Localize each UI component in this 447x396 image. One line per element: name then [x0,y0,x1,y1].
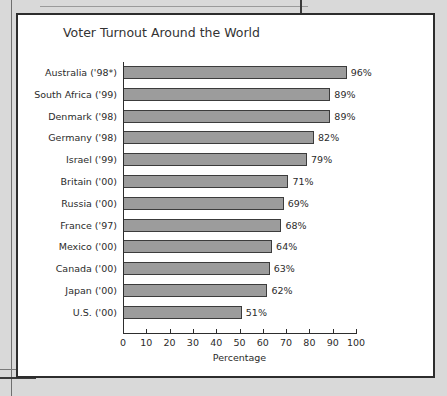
x-axis-tick-label: 50 [228,337,252,348]
y-axis-line [123,62,124,333]
x-axis-tick-label: 80 [297,337,321,348]
page-top-rule [40,6,308,7]
bar [123,175,288,188]
bar-value-label: 82% [318,131,339,144]
bar [123,284,267,297]
bar-category-label: South Africa ('99) [0,88,117,101]
bar [123,262,270,275]
bar [123,197,284,210]
x-axis-tick [309,329,310,333]
x-axis-tick-label: 20 [158,337,182,348]
x-axis-tick-label: 70 [274,337,298,348]
bar [123,131,314,144]
bar-value-label: 69% [288,197,309,210]
x-axis-title: Percentage [123,352,356,363]
x-axis-tick-label: 100 [344,337,368,348]
bar-value-label: 51% [246,306,267,319]
bar-category-label: Russia ('00) [0,197,117,210]
page-top-tick-mark [300,0,302,14]
x-axis-tick [240,329,241,333]
bar [123,153,307,166]
x-axis-line [123,333,357,334]
bar-category-label: Canada ('00) [0,262,117,275]
x-axis-tick [216,329,217,333]
bar-value-label: 89% [334,88,355,101]
bar-category-label: Israel ('99) [0,153,117,166]
bar-value-label: 96% [351,66,372,79]
x-axis-tick [286,329,287,333]
bar [123,240,272,253]
figure-container: Voter Turnout Around the World Australia… [16,13,435,378]
bar-chart-plot-area: Australia ('98*)96%South Africa ('99)89%… [18,15,433,376]
x-axis-tick [123,329,124,333]
bar [123,88,330,101]
x-axis-tick [333,329,334,333]
bar-value-label: 64% [276,240,297,253]
bar [123,110,330,123]
bar-value-label: 63% [274,262,295,275]
bar-category-label: France ('97) [0,219,117,232]
page-top-cutoff-text [120,0,300,6]
bar [123,219,281,232]
bar-category-label: Britain ('00) [0,175,117,188]
bar [123,306,242,319]
bar-value-label: 68% [285,219,306,232]
x-axis-tick [356,329,357,333]
page-root: Voter Turnout Around the World Australia… [0,0,447,396]
bar-category-label: U.S. ('00) [0,306,117,319]
x-axis-tick-label: 0 [111,337,135,348]
x-axis-tick [146,329,147,333]
bar-category-label: Mexico ('00) [0,240,117,253]
bar-category-label: Australia ('98*) [0,66,117,79]
bar [123,66,347,79]
bar-value-label: 89% [334,110,355,123]
x-axis-tick-label: 30 [181,337,205,348]
bar-category-label: Denmark ('98) [0,110,117,123]
x-axis-tick-label: 10 [134,337,158,348]
bar-value-label: 62% [271,284,292,297]
bar-category-label: Germany ('98) [0,131,117,144]
x-axis-tick [193,329,194,333]
x-axis-tick-label: 90 [321,337,345,348]
x-axis-tick-label: 60 [251,337,275,348]
bar-value-label: 71% [292,175,313,188]
x-axis-tick [263,329,264,333]
x-axis-tick [170,329,171,333]
bar-category-label: Japan ('00) [0,284,117,297]
bar-value-label: 79% [311,153,332,166]
x-axis-tick-label: 40 [204,337,228,348]
